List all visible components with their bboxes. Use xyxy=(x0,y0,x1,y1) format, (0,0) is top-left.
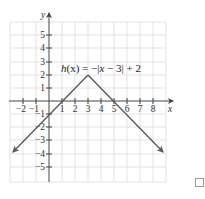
y-tick-label: −1 xyxy=(35,109,45,119)
x-tick-label: 4 xyxy=(99,104,104,114)
equation-label: h(x) = −|x − 3| + 2 xyxy=(61,62,141,75)
y-tick-label: 1 xyxy=(40,83,45,93)
y-tick-label: 2 xyxy=(40,70,45,80)
axes xyxy=(9,13,173,182)
answer-checkbox[interactable] xyxy=(195,178,204,187)
x-tick-label: 8 xyxy=(151,104,156,114)
x-tick-label: −2 xyxy=(16,104,26,114)
x-tick-label: 5 xyxy=(112,104,117,114)
x-tick-label: 3 xyxy=(86,104,91,114)
y-tick-label: 5 xyxy=(40,30,45,40)
y-tick-label: −5 xyxy=(35,162,45,172)
x-tick-label: 7 xyxy=(138,104,143,114)
y-tick-label: −3 xyxy=(35,135,45,145)
y-tick-label: −4 xyxy=(35,149,45,159)
y-tick-label: 3 xyxy=(40,57,45,67)
x-axis-label: x xyxy=(167,104,173,114)
x-tick-label: 1 xyxy=(60,104,65,114)
x-tick-label: 2 xyxy=(73,104,78,114)
y-tick-label: 4 xyxy=(40,43,45,53)
y-axis-label: y xyxy=(40,10,46,20)
graph-plot: −2 −1 1 2 3 4 5 6 7 8 5 4 3 2 1 −1 −2 −3… xyxy=(0,0,205,199)
